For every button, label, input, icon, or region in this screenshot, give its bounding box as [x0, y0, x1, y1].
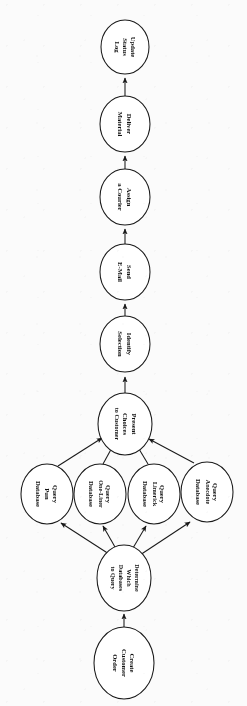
node-label-line: Identify: [126, 333, 133, 356]
node-send-e-mail[interactable]: Send E-Mail: [100, 244, 150, 300]
edge-anecdote-to-present: [149, 439, 194, 463]
node-identify-selection[interactable]: Identify Selection: [100, 316, 150, 372]
node-present-choices-to-customer[interactable]: Present Choices to Customer: [98, 393, 152, 455]
edge-determine-to-limerick: [133, 526, 146, 548]
node-label-line: Query: [159, 485, 166, 504]
node-label-line: a Courier: [117, 183, 124, 210]
edge-determine-to-anecdote: [140, 522, 190, 555]
node-label-line: Customer: [121, 649, 128, 677]
node-label-line: Pun: [44, 488, 51, 500]
node-label-line: Database: [195, 479, 202, 505]
node-update-status-log[interactable]: Update Status Log: [101, 20, 149, 74]
node-query-anecdote-database[interactable]: Query Anecdote Database: [181, 462, 233, 522]
edge-determine-to-pun: [61, 523, 109, 554]
node-label-line: Determine: [134, 564, 140, 592]
node-label-line: Log: [114, 42, 121, 54]
node-label-line: Selection: [117, 331, 124, 357]
node-label-line: Order: [112, 654, 119, 672]
node-label-line: Send: [126, 265, 133, 279]
node-query-limerick-database[interactable]: Query Limerick Database: [128, 464, 180, 524]
node-label-line: Query: [212, 483, 219, 502]
node-label-line: Present: [131, 413, 138, 435]
node-determine-which-databases-to-query[interactable]: Determine Which Databases to Query: [97, 545, 151, 611]
node-label-line: Create: [129, 654, 136, 673]
node-label-line: Anecdote: [205, 480, 211, 505]
node-label-line: Databases: [118, 565, 124, 592]
node-query-pun-database[interactable]: Query Pun Database: [21, 464, 73, 524]
node-label-line: Material: [117, 112, 124, 137]
edge-pun-to-present: [58, 438, 102, 466]
node-layer: Update Status Log Deliver Material Assig…: [21, 20, 233, 699]
node-label-line: Query: [52, 485, 59, 504]
node-label-line: Update: [130, 37, 137, 58]
node-label-line: Limerick: [152, 482, 158, 507]
node-label-line: Choices: [122, 413, 129, 435]
node-label-line: to Customer: [114, 408, 120, 441]
edge-determine-to-one-liner: [103, 526, 115, 547]
node-assign-a-courier[interactable]: Assign a Courier: [100, 169, 150, 225]
node-label-line: Status: [122, 38, 129, 56]
node-label-line: Database: [88, 481, 95, 507]
node-label-line: Database: [142, 481, 149, 507]
node-label-line: E-Mail: [117, 262, 124, 282]
node-label-line: Which: [126, 569, 132, 587]
node-label-line: to Query: [110, 566, 116, 589]
node-label-line: Query: [105, 485, 112, 504]
node-label-line: Deliver: [126, 114, 133, 135]
node-create-customer-order[interactable]: Create Customer Order: [94, 627, 154, 699]
node-label-line: One-Liner: [98, 480, 104, 508]
node-label-line: Assign: [126, 188, 133, 207]
node-query-one-liner-database[interactable]: Query One-Liner Database: [74, 464, 126, 524]
node-deliver-material[interactable]: Deliver Material: [100, 96, 150, 152]
node-label-line: Database: [35, 481, 42, 507]
flowchart-svg: Update Status Log Deliver Material Assig…: [0, 0, 247, 706]
